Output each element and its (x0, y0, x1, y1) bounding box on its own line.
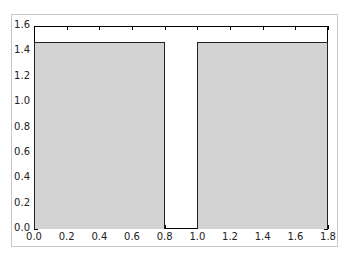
y-tick-label: 0.4 (2, 171, 30, 182)
y-tick-label: 1.6 (2, 19, 30, 30)
x-tick-mark (132, 26, 133, 30)
x-tick-label: 1.6 (280, 231, 310, 242)
x-tick-label: 0.0 (19, 231, 49, 242)
bar-1 (197, 42, 328, 229)
x-tick-mark (99, 26, 100, 30)
x-tick-mark (263, 26, 264, 30)
x-tick-label: 1.4 (248, 231, 278, 242)
x-tick-mark (165, 26, 166, 30)
x-tick-label: 0.8 (150, 231, 180, 242)
y-tick-label: 1.4 (2, 44, 30, 55)
x-tick-label: 1.8 (313, 231, 343, 242)
x-tick-mark (197, 26, 198, 30)
y-tick-label: 1.0 (2, 95, 30, 106)
x-tick-mark (165, 225, 166, 229)
x-tick-mark (328, 225, 329, 229)
x-tick-mark (67, 26, 68, 30)
y-tick-label: 0.2 (2, 197, 30, 208)
bar-0 (34, 42, 165, 229)
y-tick-mark (324, 229, 328, 230)
y-tick-label: 0.8 (2, 121, 30, 132)
x-tick-mark (328, 26, 329, 30)
x-tick-mark (295, 26, 296, 30)
x-tick-label: 0.4 (84, 231, 114, 242)
x-tick-label: 0.2 (52, 231, 82, 242)
y-tick-label: 0.6 (2, 146, 30, 157)
x-tick-label: 0.6 (117, 231, 147, 242)
x-tick-mark (34, 26, 35, 30)
y-tick-label: 1.2 (2, 70, 30, 81)
x-tick-label: 1.0 (182, 231, 212, 242)
y-tick-mark (34, 229, 38, 230)
x-tick-mark (230, 26, 231, 30)
x-tick-label: 1.2 (215, 231, 245, 242)
